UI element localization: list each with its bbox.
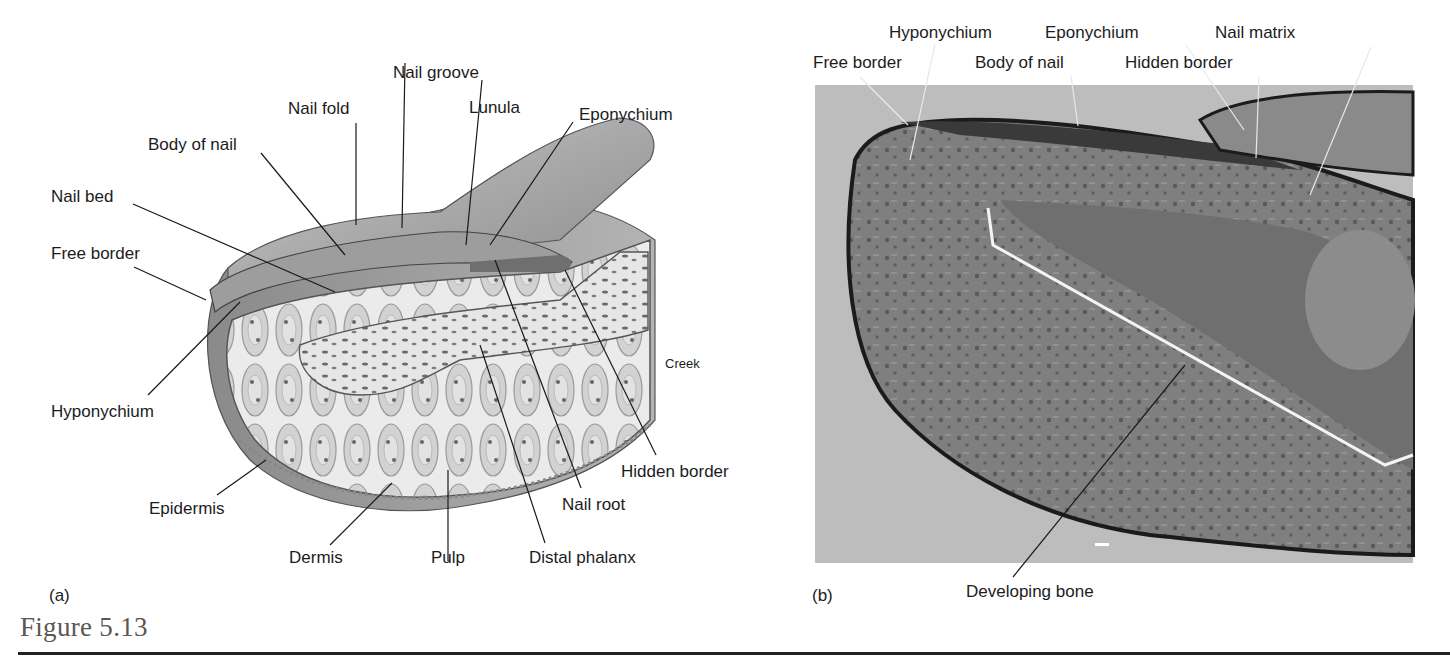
label-b-hyponychium: Hyponychium (889, 24, 992, 41)
label-b-body-of-nail: Body of nail (975, 54, 1064, 71)
label-creek: Creek (665, 357, 700, 370)
label-hidden-border: Hidden border (621, 463, 729, 480)
label-dermis: Dermis (289, 549, 343, 566)
label-b-free-border: Free border (813, 54, 902, 71)
figure-rule (18, 652, 1450, 655)
label-b-nail-matrix: Nail matrix (1215, 24, 1295, 41)
label-epidermis: Epidermis (149, 500, 225, 517)
label-nail-bed: Nail bed (51, 188, 113, 205)
label-nail-fold: Nail fold (288, 100, 349, 117)
label-body-of-nail: Body of nail (148, 136, 237, 153)
label-nail-root: Nail root (562, 496, 625, 513)
label-distal-phalanx: Distal phalanx (529, 549, 636, 566)
label-lunula: Lunula (469, 99, 520, 116)
panel-a-tag: (a) (49, 586, 70, 606)
leader-lines (0, 0, 1450, 662)
label-eponychium: Eponychium (579, 106, 673, 123)
label-b-hidden-border: Hidden border (1125, 54, 1233, 71)
label-pulp: Pulp (431, 549, 465, 566)
label-b-developing-bone: Developing bone (966, 583, 1094, 600)
figure-title: Figure 5.13 (20, 612, 148, 643)
label-hyponychium: Hyponychium (51, 403, 154, 420)
label-free-border: Free border (51, 245, 140, 262)
panel-b-tag: (b) (812, 586, 833, 606)
label-b-eponychium: Eponychium (1045, 24, 1139, 41)
label-nail-groove: Nail groove (393, 64, 479, 81)
